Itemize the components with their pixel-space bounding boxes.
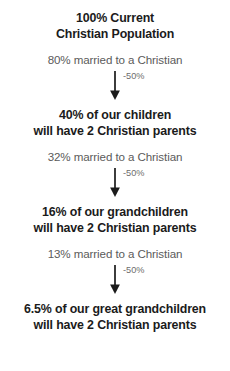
down-arrow-icon [110,265,121,295]
christian-population-decline-flow-diagram: 100% Current Christian Population 80% ma… [0,0,230,371]
generation-block-4: 6.5% of our great grandchildren will hav… [4,302,226,333]
generation-3-subtext: 13% married to a Christian [48,236,183,261]
generation-4-heading: 6.5% of our great grandchildren will hav… [24,302,206,333]
generation-block-3: 16% of our grandchildren will have 2 Chr… [4,205,226,261]
connector-1-label: -50% [123,71,144,82]
generation-1-subtext: 80% married to a Christian [48,42,183,67]
connector-2: -50% [4,164,226,205]
connector-2-label: -50% [123,168,144,179]
generation-3-heading: 16% of our grandchildren will have 2 Chr… [34,205,197,236]
connector-3: -50% [4,261,226,302]
generation-2-heading: 40% of our children will have 2 Christia… [34,108,197,139]
down-arrow-icon [110,168,121,198]
generation-block-2: 40% of our children will have 2 Christia… [4,108,226,164]
generation-block-1: 100% Current Christian Population 80% ma… [4,11,226,67]
connector-1: -50% [4,67,226,108]
connector-3-label: -50% [123,265,144,276]
generation-2-subtext: 32% married to a Christian [48,139,183,164]
generation-1-heading: 100% Current Christian Population [56,11,174,42]
down-arrow-icon [110,71,121,101]
